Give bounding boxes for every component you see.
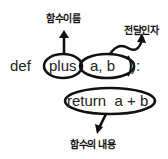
params-arrow: [110, 40, 142, 54]
body-arrowhead: [95, 124, 103, 134]
function-name-text: plus: [49, 57, 77, 74]
body-text: return a + b: [67, 92, 148, 109]
params-label: 전달인자: [124, 22, 158, 37]
def-keyword: def: [10, 57, 31, 74]
params-text: a, b: [90, 57, 115, 74]
function-name-arrowhead: [59, 30, 69, 38]
body-label: 함수의 내용: [70, 136, 115, 151]
function-name-label: 함수이름: [46, 10, 80, 25]
function-anatomy-diagram: 함수이름 전달인자 def plus a, b ): return a + b …: [0, 0, 168, 159]
closing-text: ):: [131, 57, 140, 74]
